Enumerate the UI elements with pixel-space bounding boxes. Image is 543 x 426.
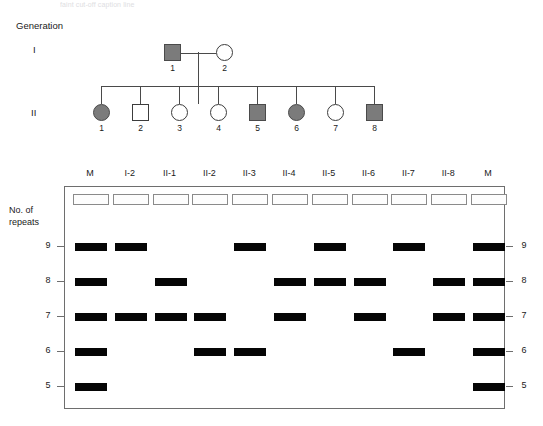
gel-lane-label: M bbox=[70, 168, 110, 178]
gel-band bbox=[274, 313, 306, 321]
gel-band bbox=[274, 278, 306, 286]
gel-lane-label: M bbox=[468, 168, 508, 178]
gel-well bbox=[471, 194, 507, 205]
gel-lane-label: I-2 bbox=[110, 168, 150, 178]
y-tick-mark-left bbox=[57, 386, 64, 387]
gel-lane-label: II-1 bbox=[150, 168, 190, 178]
y-tick-mark-left bbox=[57, 351, 64, 352]
pedigree-id-II-1: 1 bbox=[93, 123, 110, 133]
y-tick-label-right: 5 bbox=[518, 380, 530, 390]
y-tick-mark-left bbox=[57, 246, 64, 247]
gel-well bbox=[352, 194, 388, 205]
gel-band bbox=[393, 348, 425, 356]
pedigree-symbol-II-6[interactable] bbox=[288, 104, 305, 121]
sibling-drop-line bbox=[257, 86, 258, 104]
sibling-drop-line bbox=[335, 86, 336, 104]
y-axis-title-line-1: No. of bbox=[9, 205, 63, 217]
gel-band bbox=[433, 313, 465, 321]
pedigree-id-II-8: 8 bbox=[366, 123, 383, 133]
pedigree-symbol-II-5[interactable] bbox=[249, 104, 266, 121]
gel-band bbox=[155, 278, 187, 286]
pedigree-id-II-3: 3 bbox=[171, 123, 188, 133]
gel-lane-label: II-3 bbox=[229, 168, 269, 178]
y-tick-mark-left bbox=[57, 316, 64, 317]
gel-well bbox=[431, 194, 467, 205]
pedigree-id-I-1: 1 bbox=[164, 63, 181, 73]
gel-band bbox=[115, 313, 147, 321]
pedigree-symbol-II-1[interactable] bbox=[93, 104, 110, 121]
gel-band bbox=[433, 278, 465, 286]
y-tick-mark-right bbox=[506, 351, 513, 352]
gel-band bbox=[75, 383, 107, 391]
gel-band bbox=[314, 278, 346, 286]
y-tick-label-left: 8 bbox=[42, 275, 54, 285]
sibling-drop-line bbox=[374, 86, 375, 104]
pedigree-symbol-I-1[interactable] bbox=[164, 44, 181, 61]
pedigree-id-I-2: 2 bbox=[216, 63, 233, 73]
sibling-drop-line bbox=[296, 86, 297, 104]
pedigree-id-II-5: 5 bbox=[249, 123, 266, 133]
gel-well bbox=[272, 194, 308, 205]
gel-lane-label: II-2 bbox=[189, 168, 229, 178]
y-tick-label-right: 8 bbox=[518, 275, 530, 285]
gel-lane-label: II-8 bbox=[428, 168, 468, 178]
pedigree-symbol-II-3[interactable] bbox=[171, 104, 188, 121]
gel-well bbox=[113, 194, 149, 205]
y-tick-label-right: 6 bbox=[518, 345, 530, 355]
gel-lane-label: II-4 bbox=[269, 168, 309, 178]
pedigree-symbol-II-7[interactable] bbox=[327, 104, 344, 121]
gel-band bbox=[194, 313, 226, 321]
y-tick-mark-right bbox=[506, 281, 513, 282]
gel-band bbox=[314, 243, 346, 251]
y-tick-label-left: 5 bbox=[42, 380, 54, 390]
gel-band bbox=[75, 348, 107, 356]
gel-band bbox=[473, 243, 505, 251]
gel-band bbox=[473, 348, 505, 356]
y-tick-label-right: 7 bbox=[518, 310, 530, 320]
gel-band bbox=[75, 313, 107, 321]
pedigree-id-II-6: 6 bbox=[288, 123, 305, 133]
gel-band bbox=[194, 348, 226, 356]
gel-plate bbox=[64, 186, 505, 409]
y-tick-label-left: 7 bbox=[42, 310, 54, 320]
gel-band bbox=[354, 313, 386, 321]
gel-well bbox=[391, 194, 427, 205]
pedigree-symbol-II-8[interactable] bbox=[366, 104, 383, 121]
pedigree-symbol-I-2[interactable] bbox=[216, 44, 233, 61]
y-tick-label-right: 9 bbox=[518, 240, 530, 250]
sibling-drop-line bbox=[140, 86, 141, 104]
sibling-drop-line bbox=[218, 86, 219, 104]
gel-well bbox=[153, 194, 189, 205]
y-axis-title: No. of repeats bbox=[9, 205, 63, 228]
y-tick-label-left: 9 bbox=[42, 240, 54, 250]
pedigree-symbol-II-4[interactable] bbox=[210, 104, 227, 121]
gel-band bbox=[75, 243, 107, 251]
pedigree-id-II-2: 2 bbox=[132, 123, 149, 133]
gel-lane-label: II-6 bbox=[349, 168, 389, 178]
gel-well bbox=[73, 194, 109, 205]
y-tick-mark-right bbox=[506, 386, 513, 387]
gel-lane-label: II-7 bbox=[388, 168, 428, 178]
gel-band bbox=[473, 278, 505, 286]
gel-band bbox=[234, 243, 266, 251]
gel-band bbox=[473, 313, 505, 321]
pedigree-id-II-4: 4 bbox=[210, 123, 227, 133]
y-tick-mark-right bbox=[506, 246, 513, 247]
gel-well bbox=[192, 194, 228, 205]
pedigree-symbol-II-2[interactable] bbox=[132, 104, 149, 121]
gel-lane-label: II-5 bbox=[309, 168, 349, 178]
y-axis-title-line-2: repeats bbox=[9, 217, 63, 229]
gel-band bbox=[393, 243, 425, 251]
y-tick-mark-left bbox=[57, 281, 64, 282]
gel-band bbox=[75, 278, 107, 286]
gel-well bbox=[312, 194, 348, 205]
gel-band bbox=[473, 383, 505, 391]
descent-line bbox=[198, 52, 199, 104]
sibling-drop-line bbox=[101, 86, 102, 104]
gel-band bbox=[155, 313, 187, 321]
gel-band bbox=[115, 243, 147, 251]
pedigree-diagram: Generation I II 1 2 1 2 3 4 5 bbox=[0, 0, 543, 150]
generation-axis-label: Generation bbox=[16, 20, 63, 31]
figure-canvas: faint cut-off caption line Generation I … bbox=[0, 0, 543, 426]
sibship-line bbox=[101, 86, 375, 87]
